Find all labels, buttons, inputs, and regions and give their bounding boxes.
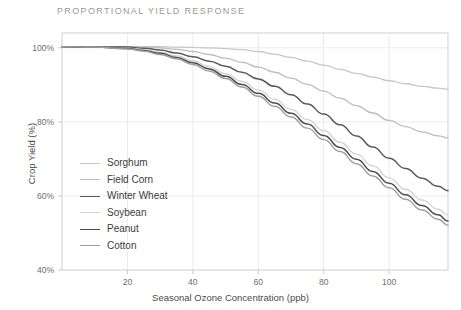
- legend-item-peanut[interactable]: Peanut: [80, 221, 168, 238]
- legend-item-label: Peanut: [107, 224, 139, 234]
- series-line-sorghum: [62, 47, 448, 90]
- x-tick-label: 80: [309, 277, 339, 287]
- legend-swatch-icon: [80, 245, 100, 246]
- legend-item-sorghum[interactable]: Sorghum: [80, 155, 168, 172]
- legend-item-label: Field Corn: [107, 175, 153, 185]
- legend-item-label: Cotton: [107, 241, 136, 251]
- legend-swatch-icon: [80, 212, 100, 213]
- legend-item-label: Soybean: [107, 208, 146, 218]
- legend-item-field-corn[interactable]: Field Corn: [80, 172, 168, 189]
- legend-item-label: Sorghum: [107, 158, 148, 168]
- x-tick-label: 40: [178, 277, 208, 287]
- x-tick-label: 20: [112, 277, 142, 287]
- legend-swatch-icon: [80, 196, 100, 197]
- legend-item-soybean[interactable]: Soybean: [80, 205, 168, 222]
- legend-swatch-icon: [80, 229, 100, 230]
- y-tick-label: 60%: [20, 191, 54, 201]
- y-tick-label: 40%: [20, 265, 54, 275]
- chart-container: PROPORTIONAL YIELD RESPONSE Crop Yield (…: [0, 0, 461, 310]
- y-tick-label: 100%: [20, 43, 54, 53]
- plot-area: [0, 0, 461, 310]
- y-tick-label: 80%: [20, 117, 54, 127]
- x-tick-label: 60: [243, 277, 273, 287]
- chart-legend: SorghumField CornWinter WheatSoybeanPean…: [80, 155, 168, 254]
- legend-item-label: Winter Wheat: [107, 191, 168, 201]
- legend-swatch-icon: [80, 179, 100, 180]
- legend-item-winter-wheat[interactable]: Winter Wheat: [80, 188, 168, 205]
- legend-item-cotton[interactable]: Cotton: [80, 238, 168, 255]
- legend-swatch-icon: [80, 163, 100, 164]
- x-tick-label: 100: [374, 277, 404, 287]
- x-axis-label: Seasonal Ozone Concentration (ppb): [0, 292, 461, 303]
